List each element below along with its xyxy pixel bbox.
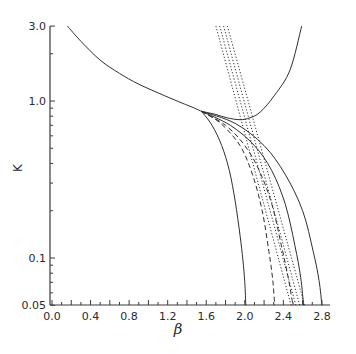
curve-dotted-3 (224, 26, 300, 305)
y-tick-label: 3.0 (29, 20, 47, 33)
curve-dashed-2.5 (201, 111, 293, 305)
y-axis-label: K (11, 163, 25, 172)
curve-common-branch (67, 26, 201, 111)
curve-collapse-2.0 (201, 111, 245, 305)
x-ticks: 0.00.40.81.21.62.02.42.8 (43, 300, 330, 323)
x-tick-label: 1.6 (197, 310, 215, 323)
y-tick-label: 0.05 (22, 299, 47, 312)
x-tick-label: 0.4 (82, 310, 100, 323)
curve-dotted-4 (227, 26, 304, 305)
y-tick-label: 1.0 (29, 95, 47, 108)
y-tick-label: 0.1 (29, 252, 47, 265)
curve-dashed-2.3 (201, 111, 274, 305)
axes (50, 26, 330, 305)
x-tick-label: 0.8 (120, 310, 138, 323)
curve-dotted-2 (220, 26, 296, 305)
curve-u-curve (201, 26, 301, 120)
x-axis-label: β (173, 320, 183, 338)
chart: 0.00.40.81.21.62.02.42.8 3.01.00.10.05 β… (0, 0, 356, 354)
x-tick-label: 2.4 (275, 310, 293, 323)
x-tick-label: 2.8 (313, 310, 331, 323)
x-tick-label: 2.0 (236, 310, 254, 323)
curves (67, 26, 322, 305)
